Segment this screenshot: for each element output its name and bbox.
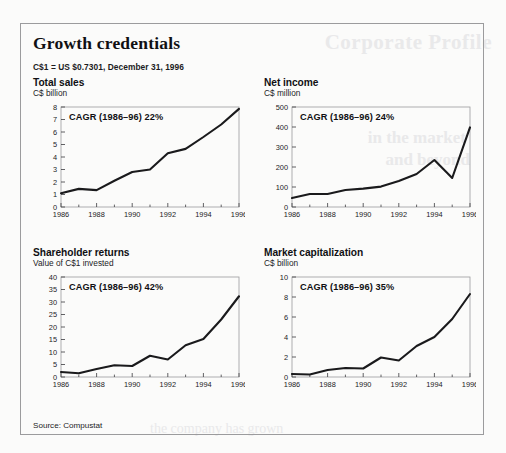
svg-text:5: 5 bbox=[53, 140, 57, 149]
svg-text:100: 100 bbox=[276, 183, 288, 192]
cagr-annotation: CAGR (1986–96) 35% bbox=[300, 282, 394, 292]
svg-text:5: 5 bbox=[53, 360, 57, 369]
svg-text:1986: 1986 bbox=[53, 380, 69, 389]
svg-text:400: 400 bbox=[276, 123, 288, 132]
chart-title: Shareholder returns bbox=[33, 247, 245, 258]
svg-text:1990: 1990 bbox=[355, 210, 371, 219]
cagr-annotation: CAGR (1986–96) 22% bbox=[69, 112, 163, 122]
cagr-annotation: CAGR (1986–96) 42% bbox=[69, 282, 163, 292]
growth-credentials-panel: Growth credentials C$1 = US $0.7301, Dec… bbox=[20, 23, 484, 435]
svg-text:7: 7 bbox=[53, 115, 57, 124]
chart-total-sales: Total sales C$ billion 01234567819861988… bbox=[33, 77, 245, 229]
svg-text:200: 200 bbox=[276, 163, 288, 172]
svg-text:1988: 1988 bbox=[88, 380, 104, 389]
svg-text:1996: 1996 bbox=[462, 210, 476, 219]
plot-area: 0100200300400500198619881990199219941996… bbox=[264, 101, 476, 223]
svg-text:1994: 1994 bbox=[195, 380, 211, 389]
page-title: Growth credentials bbox=[33, 34, 473, 53]
svg-text:3: 3 bbox=[53, 165, 57, 174]
svg-text:4: 4 bbox=[53, 153, 57, 162]
source-note: Source: Compustat bbox=[33, 421, 102, 430]
svg-text:1: 1 bbox=[53, 190, 57, 199]
svg-text:1988: 1988 bbox=[88, 210, 104, 219]
plot-area: 0246810198619881990199219941996 CAGR (19… bbox=[264, 271, 476, 393]
svg-text:15: 15 bbox=[49, 335, 57, 344]
plot-area: 012345678198619881990199219941996 CAGR (… bbox=[33, 101, 245, 223]
svg-text:25: 25 bbox=[49, 310, 57, 319]
svg-text:1994: 1994 bbox=[195, 210, 211, 219]
exchange-rate-note: C$1 = US $0.7301, December 31, 1996 bbox=[33, 62, 473, 72]
svg-text:1992: 1992 bbox=[391, 380, 407, 389]
svg-text:35: 35 bbox=[49, 285, 57, 294]
svg-text:8: 8 bbox=[53, 103, 57, 112]
svg-text:1992: 1992 bbox=[160, 210, 176, 219]
svg-text:1996: 1996 bbox=[231, 210, 245, 219]
svg-text:1990: 1990 bbox=[124, 210, 140, 219]
svg-text:30: 30 bbox=[49, 298, 57, 307]
chart-subtitle: C$ million bbox=[264, 89, 476, 99]
chart-title: Market capitalization bbox=[264, 247, 476, 258]
svg-text:1988: 1988 bbox=[319, 380, 335, 389]
svg-text:1992: 1992 bbox=[160, 380, 176, 389]
svg-text:40: 40 bbox=[49, 273, 57, 282]
svg-text:1994: 1994 bbox=[426, 210, 442, 219]
svg-text:20: 20 bbox=[49, 323, 57, 332]
svg-text:500: 500 bbox=[276, 103, 288, 112]
cagr-annotation: CAGR (1986–96) 24% bbox=[300, 112, 394, 122]
svg-text:300: 300 bbox=[276, 143, 288, 152]
chart-net-income: Net income C$ million 010020030040050019… bbox=[264, 77, 476, 229]
svg-text:1994: 1994 bbox=[426, 380, 442, 389]
svg-text:4: 4 bbox=[284, 333, 288, 342]
svg-text:1986: 1986 bbox=[53, 210, 69, 219]
svg-text:1990: 1990 bbox=[124, 380, 140, 389]
chart-shareholder-returns: Shareholder returns Value of C$1 investe… bbox=[33, 247, 245, 399]
svg-text:10: 10 bbox=[49, 348, 57, 357]
svg-text:10: 10 bbox=[280, 273, 288, 282]
svg-text:1986: 1986 bbox=[284, 380, 300, 389]
svg-text:8: 8 bbox=[284, 293, 288, 302]
svg-text:1996: 1996 bbox=[462, 380, 476, 389]
svg-text:6: 6 bbox=[53, 128, 57, 137]
svg-text:1988: 1988 bbox=[319, 210, 335, 219]
plot-area: 0510152025303540198619881990199219941996… bbox=[33, 271, 245, 393]
chart-subtitle: C$ billion bbox=[264, 259, 476, 269]
svg-text:1992: 1992 bbox=[391, 210, 407, 219]
chart-subtitle: C$ billion bbox=[33, 89, 245, 99]
chart-title: Net income bbox=[264, 77, 476, 88]
chart-subtitle: Value of C$1 invested bbox=[33, 259, 245, 269]
svg-text:1990: 1990 bbox=[355, 380, 371, 389]
svg-text:6: 6 bbox=[284, 313, 288, 322]
chart-market-capitalization: Market capitalization C$ billion 0246810… bbox=[264, 247, 476, 399]
chart-title: Total sales bbox=[33, 77, 245, 88]
svg-text:2: 2 bbox=[53, 178, 57, 187]
svg-text:1996: 1996 bbox=[231, 380, 245, 389]
svg-text:2: 2 bbox=[284, 353, 288, 362]
svg-text:1986: 1986 bbox=[284, 210, 300, 219]
